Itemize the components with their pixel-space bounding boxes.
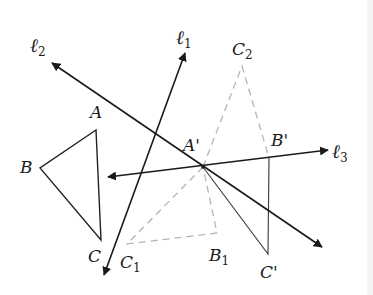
page-edge <box>367 0 373 295</box>
label-a-prime: A' <box>181 135 200 155</box>
line-l3 <box>108 150 328 177</box>
label-c2: C2 <box>232 39 253 62</box>
point-a-prime-dot <box>201 165 205 169</box>
label-l3: ℓ3 <box>332 140 348 165</box>
label-l1: ℓ1 <box>176 26 192 51</box>
triangle-abc <box>40 130 101 240</box>
label-c-prime: C' <box>260 262 278 282</box>
triangle-image2-dashed <box>203 66 269 167</box>
label-b-prime: B' <box>270 130 288 150</box>
label-c: C <box>88 246 101 266</box>
label-b1: B1 <box>208 245 229 268</box>
label-a: A <box>88 102 102 122</box>
label-c1: C1 <box>120 252 141 275</box>
label-l2: ℓ2 <box>30 34 46 59</box>
triangle-image1-dashed <box>127 167 217 244</box>
reflection-diagram: ℓ1 ℓ2 ℓ3 A B C A' B' C' C1 B1 C2 <box>0 0 373 295</box>
label-b: B <box>19 157 33 177</box>
